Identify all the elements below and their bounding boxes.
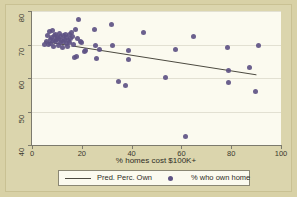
- legend-label-pred-perc-own: Pred. Perc. Own: [97, 174, 152, 182]
- x-axis-label: % homes cost $100K+: [31, 157, 281, 165]
- y-axis-tick-label: 60: [15, 73, 29, 83]
- legend-line-swatch: [65, 178, 91, 179]
- legend-label-percent-who-own-home: % who own home: [191, 174, 250, 182]
- scatter-point: [123, 83, 128, 88]
- scatter-point: [73, 27, 78, 32]
- scatter-point: [116, 79, 121, 84]
- legend-entry-pred-perc-own: Pred. Perc. Own: [59, 171, 152, 185]
- figure-container: 4050607080020406080100 % homes cost $100…: [0, 0, 297, 197]
- scatter-point: [256, 43, 261, 48]
- y-gridline: [32, 11, 281, 12]
- legend-entry-percent-who-own-home: % who own home: [152, 171, 250, 185]
- scatter-point: [126, 48, 131, 53]
- y-gridline: [32, 78, 281, 79]
- scatter-point: [226, 68, 231, 73]
- y-axis-tick-label: 50: [15, 107, 29, 117]
- plot-area: 4050607080020406080100: [31, 11, 281, 146]
- chart-legend: Pred. Perc. Own % who own home: [58, 170, 250, 186]
- scatter-point: [141, 30, 146, 35]
- scatter-point: [94, 56, 99, 61]
- y-axis-tick-label: 70: [15, 40, 29, 50]
- legend-marker-swatch: [168, 176, 173, 181]
- y-axis-tick-label: 80: [15, 6, 29, 16]
- y-axis-tick-label: 40: [15, 140, 29, 150]
- y-gridline: [32, 112, 281, 113]
- scatter-point: [173, 47, 178, 52]
- scatter-point: [109, 22, 114, 27]
- scatter-point: [92, 27, 97, 32]
